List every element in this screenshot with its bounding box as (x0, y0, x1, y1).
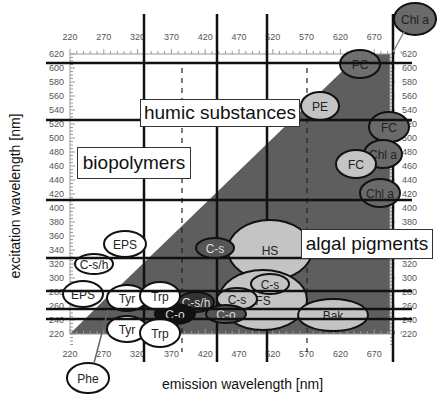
svg-text:Phe: Phe (77, 372, 99, 386)
component-chl-a: Chl a (394, 3, 436, 35)
component-fc: FC (369, 112, 409, 142)
x-tick-label-bottom: 470 (231, 349, 246, 359)
y-axis-title: excitation wavelength [nm] (7, 111, 23, 281)
y-tick-label-left: 220 (49, 329, 64, 339)
component-eps: EPS (104, 231, 146, 257)
svg-text:Tyr: Tyr (119, 323, 136, 337)
y-tick-label-right: 480 (402, 147, 417, 157)
x-tick-label-top: 470 (231, 32, 246, 42)
svg-text:C-s: C-s (206, 242, 225, 256)
x-axis-title: emission wavelength [nm] (162, 376, 323, 392)
svg-text:Chl a: Chl a (401, 13, 429, 27)
component-pe: PE (301, 92, 339, 120)
y-tick-label-left: 320 (49, 259, 64, 269)
x-tick-label-bottom: 270 (96, 349, 111, 359)
y-tick-label-right: 320 (402, 259, 417, 269)
y-tick-label-left: 600 (49, 63, 64, 73)
region-label-biopolymers: biopolymers (77, 147, 191, 179)
component-chl-a: Chl a (360, 179, 400, 207)
y-tick-label-left: 300 (49, 273, 64, 283)
component-c-s: C-s (196, 238, 234, 258)
svg-text:EPS: EPS (71, 288, 95, 302)
svg-text:FC: FC (381, 121, 397, 135)
y-tick-label-left: 380 (49, 217, 64, 227)
y-tick-label-left: 580 (49, 77, 64, 87)
svg-text:Trp: Trp (151, 327, 169, 341)
y-tick-label-right: 300 (402, 273, 417, 283)
y-tick-label-left: 480 (49, 147, 64, 157)
component-trp: Trp (140, 282, 180, 310)
svg-text:PE: PE (312, 100, 328, 114)
x-tick-label-bottom: 420 (198, 349, 213, 359)
svg-text:C-s/h: C-s/h (80, 258, 109, 272)
y-tick-label-left: 540 (49, 105, 64, 115)
svg-text:Chl a: Chl a (366, 187, 394, 201)
region-label-algal-pigments: algal pigments (301, 229, 433, 259)
component-fc: FC (336, 150, 376, 178)
x-tick-label-top: 570 (299, 32, 314, 42)
diagram-canvas: 2202202702703203203703704204204704705205… (0, 0, 444, 409)
component-trp: Trp (140, 319, 180, 347)
y-tick-label-left: 620 (49, 49, 64, 59)
x-tick-label-bottom: 670 (367, 349, 382, 359)
svg-text:C-s: C-s (261, 278, 280, 292)
y-tick-label-left: 560 (49, 91, 64, 101)
component-phe: Phe (67, 363, 109, 393)
x-tick-label-top: 370 (164, 32, 179, 42)
y-tick-label-left: 420 (49, 189, 64, 199)
svg-text:EPS: EPS (113, 238, 137, 252)
y-tick-label-right: 420 (402, 189, 417, 199)
region-label-humic-substances: humic substances (140, 99, 300, 127)
x-tick-label-top: 620 (333, 32, 348, 42)
x-tick-label-bottom: 620 (333, 349, 348, 359)
eem-diagram: 2202202702703203203703704204204704705205… (0, 0, 444, 409)
x-tick-label-top: 270 (96, 32, 111, 42)
y-tick-label-left: 460 (49, 161, 64, 171)
y-tick-label-right: 460 (402, 161, 417, 171)
y-tick-label-left: 440 (49, 175, 64, 185)
y-tick-label-left: 400 (49, 203, 64, 213)
y-tick-label-left: 360 (49, 231, 64, 241)
y-tick-label-right: 380 (402, 217, 417, 227)
y-tick-label-right: 620 (402, 49, 417, 59)
x-tick-label-bottom: 220 (62, 349, 77, 359)
y-tick-label-right: 540 (402, 105, 417, 115)
x-tick-label-top: 420 (198, 32, 213, 42)
svg-text:Bak: Bak (323, 309, 345, 323)
y-tick-label-right: 560 (402, 91, 417, 101)
svg-text:PC: PC (352, 58, 369, 72)
svg-text:Tyr: Tyr (119, 292, 136, 306)
y-tick-label-left: 500 (49, 133, 64, 143)
y-tick-label-right: 220 (402, 329, 417, 339)
y-tick-label-right: 440 (402, 175, 417, 185)
x-tick-label-top: 670 (367, 32, 382, 42)
y-tick-label-right: 400 (402, 203, 417, 213)
y-tick-label-right: 580 (402, 77, 417, 87)
x-tick-label-bottom: 370 (164, 349, 179, 359)
component-eps: EPS (63, 281, 103, 307)
svg-text:FC: FC (348, 158, 364, 172)
svg-text:HS: HS (262, 244, 279, 258)
x-tick-label-top: 220 (62, 32, 77, 42)
component-bak: Bak (298, 299, 368, 331)
y-tick-label-left: 340 (49, 245, 64, 255)
y-tick-label-right: 600 (402, 63, 417, 73)
